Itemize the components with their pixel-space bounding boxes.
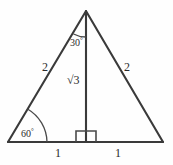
degree-sign-icon: ° bbox=[31, 127, 34, 135]
apex-angle-value: 30 bbox=[70, 37, 80, 48]
base-left-angle-value: 60 bbox=[21, 128, 31, 139]
apex-angle-label: 30° bbox=[70, 37, 83, 48]
base-left-segment-label: 1 bbox=[55, 147, 61, 159]
left-side-label: 2 bbox=[42, 61, 48, 73]
base-right-segment-label: 1 bbox=[115, 147, 121, 159]
altitude-label: √3 bbox=[67, 74, 80, 86]
right-side-line bbox=[86, 11, 163, 142]
geometry-diagram: 30° 60° 2 2 √3 1 1 bbox=[0, 0, 173, 165]
base-left-angle-label: 60° bbox=[21, 128, 34, 139]
right-side-label: 2 bbox=[124, 61, 130, 73]
right-angle-marker-right bbox=[86, 131, 96, 142]
degree-sign-icon: ° bbox=[80, 36, 83, 44]
triangle-figure bbox=[0, 0, 173, 165]
right-angle-marker-left bbox=[76, 131, 86, 142]
